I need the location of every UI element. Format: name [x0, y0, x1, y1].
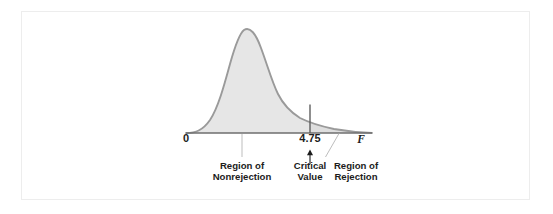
annotation-critical-value: Critical Value — [294, 160, 327, 182]
nonrejection-region-area — [186, 29, 310, 133]
annotation-region-of-nonrejection: Region of Nonrejection — [213, 160, 272, 182]
annotation-nonrejection-line1: Region of — [220, 160, 264, 171]
x-axis-variable-label: F — [357, 133, 365, 145]
annotation-rejection-line2: Rejection — [334, 171, 378, 182]
annotation-nonrejection-line2: Nonrejection — [213, 171, 272, 182]
distribution-plot — [0, 0, 553, 214]
figure-container: 0 4.75 F Region of Nonrejection Critical… — [0, 0, 553, 214]
annotation-critical-line1: Critical — [294, 160, 327, 171]
annotation-critical-line2: Value — [294, 171, 327, 182]
annotation-rejection-line1: Region of — [334, 160, 378, 171]
x-axis-tick-label-critical: 4.75 — [299, 133, 320, 145]
rejection-leader-line — [326, 134, 340, 158]
annotation-region-of-rejection: Region of Rejection — [334, 160, 378, 182]
x-axis-tick-label-0: 0 — [183, 133, 189, 145]
